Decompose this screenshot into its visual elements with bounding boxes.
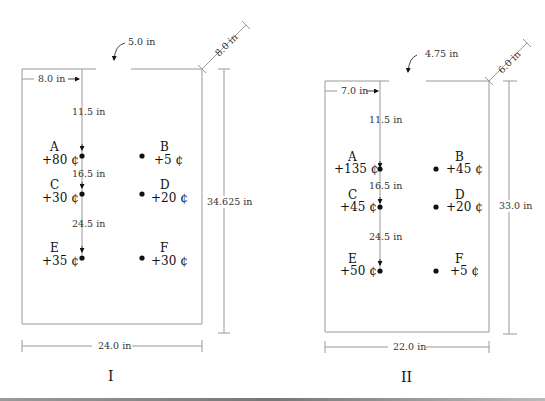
spot-f-dot — [433, 268, 438, 273]
spot-b-letter: B — [160, 140, 169, 154]
spot-a-letter: A — [49, 140, 59, 154]
door-offset-label: 7.0 in — [341, 85, 368, 96]
spot-e-dot — [377, 268, 382, 273]
spot-d-dot — [139, 191, 144, 196]
spot-d-value: +20 ¢ — [446, 200, 483, 214]
spot-f-value: +30 ¢ — [151, 254, 188, 268]
spot-b-dot — [433, 166, 438, 171]
spot-e-value: +35 ¢ — [42, 254, 79, 268]
spot-e-value: +50 ¢ — [340, 264, 377, 278]
spacing-label-1: 11.5 in — [369, 114, 402, 125]
spot-f-letter: F — [160, 241, 168, 255]
door-arrow-icon — [408, 55, 417, 72]
spot-d-value: +20 ¢ — [151, 191, 188, 205]
wall-depth-label: 8.0 in — [213, 31, 240, 58]
spacing-label-2: 16.5 in — [369, 180, 402, 191]
panel-ii: 4.75 in 6.0 in 7.0 in 11.5 in 16.5 in 24… — [325, 39, 532, 385]
panel-i: 5.0 in 8.0 in 8.0 in 11.5 in 16.5 in 24.… — [22, 21, 252, 384]
door-arrow-icon — [114, 43, 125, 60]
spot-d-dot — [433, 204, 438, 209]
spot-e-letter: E — [50, 241, 59, 255]
spot-a-value: +80 ¢ — [42, 153, 79, 167]
spacing-label-1: 11.5 in — [72, 106, 105, 117]
panel-caption: II — [401, 369, 412, 385]
spacing-label-3: 24.5 in — [72, 218, 105, 229]
spot-c-value: +45 ¢ — [340, 200, 377, 214]
spacing-label-3: 24.5 in — [369, 231, 402, 242]
panel-caption: I — [108, 368, 114, 384]
door-offset-label: 8.0 in — [38, 73, 65, 84]
width-label: 22.0 in — [393, 341, 426, 352]
spot-f-value: +5 ¢ — [450, 264, 479, 278]
spot-a-dot — [79, 153, 84, 158]
width-label: 24.0 in — [98, 340, 131, 351]
diagram: 5.0 in 8.0 in 8.0 in 11.5 in 16.5 in 24.… — [0, 0, 545, 401]
door-width-label: 4.75 in — [425, 48, 458, 59]
spot-e-dot — [79, 255, 84, 260]
height-label: 34.625 in — [207, 196, 252, 207]
spot-b-value: +45 ¢ — [446, 162, 483, 176]
spot-c-dot — [79, 191, 84, 196]
height-label: 33.0 in — [499, 200, 532, 211]
spot-c-dot — [377, 204, 382, 209]
spacing-label-2: 16.5 in — [72, 168, 105, 179]
spot-c-letter: C — [50, 178, 59, 192]
spot-c-value: +30 ¢ — [42, 191, 79, 205]
spot-d-letter: D — [160, 178, 170, 192]
spot-a-dot — [377, 166, 382, 171]
spot-f-dot — [139, 255, 144, 260]
wall-depth-label: 6.0 in — [496, 48, 523, 75]
spot-b-value: +5 ¢ — [154, 153, 183, 167]
spot-a-value: +135 ¢ — [334, 162, 378, 176]
door-width-label: 5.0 in — [128, 36, 155, 47]
spot-b-dot — [139, 153, 144, 158]
